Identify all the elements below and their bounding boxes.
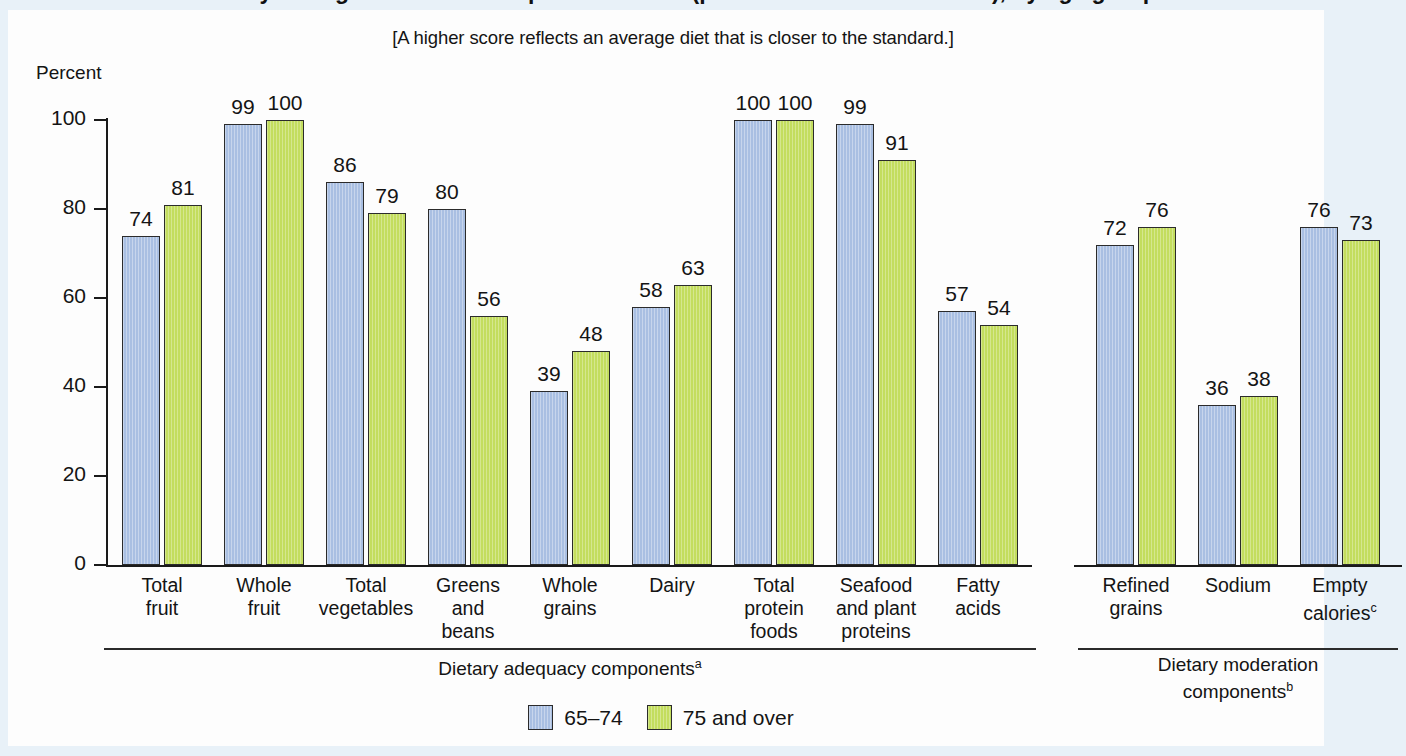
category-label-line: acids: [910, 597, 1046, 620]
footnote-marker: b: [1286, 680, 1293, 694]
bar-value-label: 56: [458, 287, 520, 311]
x-axis-line-right: [1074, 565, 1402, 567]
category-label-line: beans: [400, 620, 536, 643]
bar-greens-and-beans-65-74: [428, 209, 466, 565]
bar-whole-fruit-65-74: [224, 124, 262, 565]
group-caption-line: componentsb: [1078, 676, 1398, 703]
category-label-fatty-acids: Fattyacids: [910, 574, 1046, 620]
footnote-marker: c: [1370, 601, 1376, 615]
chart-title: Healthy Eating Index-2010 component scor…: [0, 0, 1346, 5]
bar-whole-fruit-75-and-over: [266, 120, 304, 565]
y-tick-80: [94, 208, 106, 210]
x-axis-line-left: [108, 565, 1032, 567]
legend-swatch-icon-65-74: [528, 705, 553, 730]
y-tick-label-80: 80: [28, 195, 86, 219]
y-tick-40: [94, 386, 106, 388]
y-tick-label-100: 100: [28, 106, 86, 130]
bar-seafood-and-plant-proteins-75-and-over: [878, 160, 916, 565]
bar-total-protein-foods-65-74: [734, 120, 772, 565]
bar-value-label: 48: [560, 322, 622, 346]
bar-value-label: 39: [518, 362, 580, 386]
chart-legend: 65–74 75 and over: [0, 705, 1346, 730]
bar-dairy-65-74: [632, 307, 670, 565]
bar-value-label: 38: [1228, 367, 1290, 391]
chart-subtitle: [A higher score reflects an average diet…: [0, 27, 1346, 49]
bar-total-fruit-75-and-over: [164, 205, 202, 565]
bar-seafood-and-plant-proteins-65-74: [836, 124, 874, 565]
legend-item-65-74[interactable]: 65–74: [528, 705, 646, 730]
legend-label-65-74: 65–74: [564, 706, 622, 730]
y-tick-label-40: 40: [28, 373, 86, 397]
bar-value-label: 63: [662, 256, 724, 280]
group-caption-line: Dietary moderation: [1078, 653, 1398, 676]
bar-whole-grains-65-74: [530, 391, 568, 565]
bar-total-fruit-65-74: [122, 236, 160, 565]
bar-value-label: 99: [824, 95, 886, 119]
category-label-line: proteins: [808, 620, 944, 643]
bar-total-protein-foods-75-and-over: [776, 120, 814, 565]
group-rule-moderation: [1078, 648, 1398, 650]
chart-title-strip: Healthy Eating Index-2010 component scor…: [0, 0, 1346, 10]
y-tick-100: [94, 119, 106, 121]
bar-sodium-75-and-over: [1240, 396, 1278, 565]
y-axis-label: Percent: [36, 62, 101, 84]
category-label-line: grains: [1068, 597, 1204, 620]
bar-value-label: 100: [764, 91, 826, 115]
bar-value-label: 100: [254, 91, 316, 115]
category-label-line: caloriesc: [1272, 597, 1406, 625]
y-tick-20: [94, 475, 106, 477]
bar-value-label: 81: [152, 176, 214, 200]
category-label-line: Fatty: [910, 574, 1046, 597]
category-label-line: grains: [502, 597, 638, 620]
legend-item-75-and-over[interactable]: 75 and over: [647, 705, 818, 730]
bar-total-vegetables-65-74: [326, 182, 364, 565]
group-caption-moderation: Dietary moderationcomponentsb: [1078, 653, 1398, 703]
bar-value-label: 58: [620, 278, 682, 302]
category-label-empty-calories: Emptycaloriesc: [1272, 574, 1406, 625]
bar-fatty-acids-75-and-over: [980, 325, 1018, 565]
y-tick-0: [94, 564, 106, 566]
bar-value-label: 86: [314, 153, 376, 177]
y-tick-label-20: 20: [28, 462, 86, 486]
footnote-marker: a: [695, 657, 702, 671]
group-rule-adequacy: [104, 648, 1036, 650]
category-label-line: Empty: [1272, 574, 1406, 597]
bar-value-label: 54: [968, 296, 1030, 320]
y-tick-label-60: 60: [28, 284, 86, 308]
bar-value-label: 76: [1126, 198, 1188, 222]
y-axis-line: [106, 118, 108, 567]
bar-value-label: 91: [866, 131, 928, 155]
bar-value-label: 73: [1330, 211, 1392, 235]
bar-refined-grains-65-74: [1096, 245, 1134, 565]
bar-value-label: 74: [110, 207, 172, 231]
y-tick-label-0: 0: [28, 551, 86, 575]
bar-sodium-65-74: [1198, 405, 1236, 565]
bar-greens-and-beans-75-and-over: [470, 316, 508, 565]
bar-empty-calories-65-74: [1300, 227, 1338, 565]
bar-whole-grains-75-and-over: [572, 351, 610, 565]
bar-value-label: 80: [416, 180, 478, 204]
bar-dairy-75-and-over: [674, 285, 712, 565]
bar-total-vegetables-75-and-over: [368, 213, 406, 565]
bar-refined-grains-75-and-over: [1138, 227, 1176, 565]
bar-empty-calories-75-and-over: [1342, 240, 1380, 565]
y-tick-60: [94, 297, 106, 299]
legend-label-75-and-over: 75 and over: [683, 706, 794, 730]
bar-fatty-acids-65-74: [938, 311, 976, 565]
bar-value-label: 79: [356, 184, 418, 208]
group-caption-adequacy: Dietary adequacy componentsa: [104, 653, 1036, 680]
legend-swatch-icon-75-and-over: [647, 705, 672, 730]
group-caption-line: Dietary adequacy componentsa: [104, 653, 1036, 680]
